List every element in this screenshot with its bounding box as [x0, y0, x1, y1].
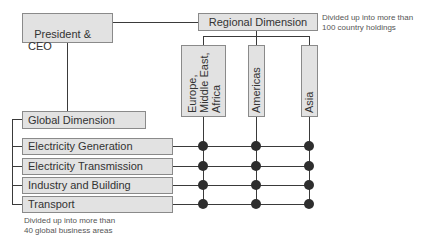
president-to-regional-line [113, 22, 198, 23]
sector-label: Industry and Building [28, 179, 131, 191]
region-label-emea: Europe, Middle East, Africa [186, 49, 222, 113]
matrix-node [304, 161, 314, 171]
president-ceo-label: President & CEO [28, 28, 91, 52]
region-label-americas: Americas [250, 49, 262, 113]
global-dimension-box: Global Dimension [22, 111, 146, 129]
sector-box-electricity-generation: Electricity Generation [22, 138, 173, 155]
sector-grid-line-3 [173, 185, 310, 186]
bracket-tick-2 [12, 166, 22, 167]
matrix-node [304, 180, 314, 190]
bracket-tick-global [12, 119, 22, 120]
regional-dimension-box: Regional Dimension [198, 13, 318, 31]
global-note: Divided up into more than 40 global busi… [24, 216, 115, 236]
region-label-asia: Asia [303, 49, 315, 113]
sector-grid-line-1 [173, 146, 310, 147]
regional-note: Divided up into more than 100 country ho… [322, 13, 413, 33]
sector-box-electricity-transmission: Electricity Transmission [22, 158, 173, 175]
matrix-node [251, 161, 261, 171]
sector-box-transport: Transport [22, 196, 173, 213]
president-to-global-line [67, 43, 68, 111]
regional-dimension-label: Regional Dimension [209, 16, 307, 28]
sector-grid-line-4 [173, 204, 310, 205]
region-drop-line-3 [309, 36, 310, 45]
matrix-node [251, 180, 261, 190]
matrix-node [304, 141, 314, 151]
bracket-tick-3 [12, 185, 22, 186]
sector-label: Electricity Generation [28, 140, 133, 152]
global-bracket-line [12, 119, 13, 205]
sector-box-industry-building: Industry and Building [22, 177, 173, 194]
sector-label: Transport [28, 198, 75, 210]
matrix-node [251, 199, 261, 209]
region-drop-line-2 [256, 36, 257, 45]
matrix-node [198, 141, 208, 151]
bracket-tick-1 [12, 146, 22, 147]
matrix-node [251, 141, 261, 151]
bracket-tick-4 [12, 204, 22, 205]
president-ceo-box: President & CEO [22, 13, 113, 43]
matrix-node [198, 180, 208, 190]
sector-grid-line-2 [173, 166, 310, 167]
matrix-node [198, 199, 208, 209]
global-dimension-label: Global Dimension [28, 114, 115, 126]
matrix-node [198, 161, 208, 171]
region-drop-line-1 [203, 36, 204, 45]
sector-label: Electricity Transmission [28, 160, 143, 172]
matrix-node [304, 199, 314, 209]
